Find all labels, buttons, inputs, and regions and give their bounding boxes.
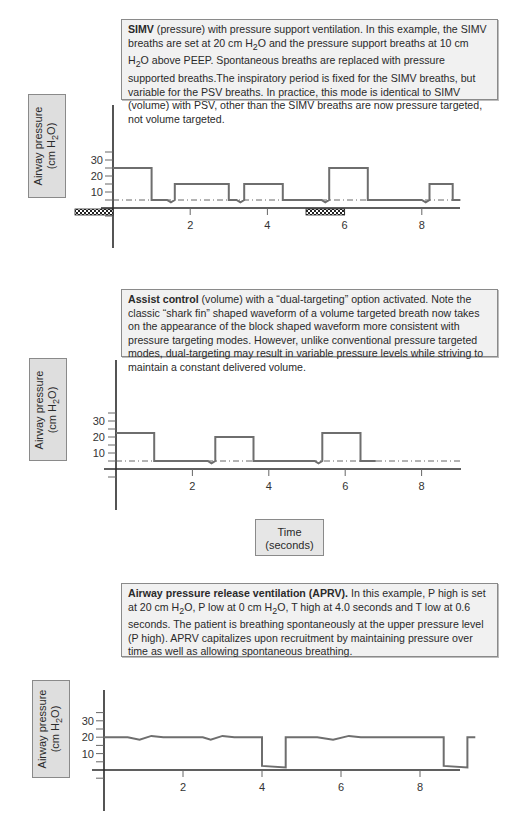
x-tick-label: 4: [259, 781, 265, 793]
y-tick-label: 10: [82, 748, 94, 760]
pressure-waveform: [104, 736, 475, 768]
chart-aprv: 1020302468: [0, 0, 531, 832]
y-tick-label: 30: [82, 715, 94, 727]
x-tick-label: 8: [417, 781, 423, 793]
x-tick-label: 6: [338, 781, 344, 793]
x-tick-label: 2: [180, 781, 186, 793]
y-tick-label: 20: [82, 731, 94, 743]
